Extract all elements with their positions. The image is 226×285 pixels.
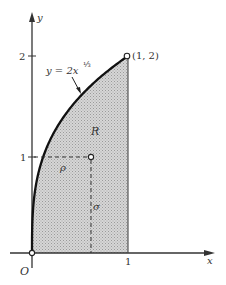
diagram-canvas: y x 2 1 1 O y = 2x ⅓ (1, 2) R ρ σ xyxy=(0,0,226,285)
endpoint-1-2 xyxy=(124,53,130,59)
y-axis-arrow-icon xyxy=(29,12,35,22)
equation-leader-arrow-icon xyxy=(76,87,81,94)
sigma-label: σ xyxy=(93,201,101,212)
curve-equation-label: y = 2x xyxy=(45,65,79,76)
origin-point xyxy=(29,250,34,255)
curve-exponent-label: ⅓ xyxy=(83,60,91,69)
rho-label: ρ xyxy=(59,162,66,173)
endpoint-coordinate-label: (1, 2) xyxy=(132,50,159,61)
origin-label: O xyxy=(20,265,29,278)
y-tick-label-1: 1 xyxy=(20,152,26,163)
region-r xyxy=(32,56,128,253)
region-label: R xyxy=(90,125,99,138)
x-tick-label-1: 1 xyxy=(125,256,131,267)
y-axis-label: y xyxy=(36,12,43,23)
y-tick-label-2: 2 xyxy=(19,51,25,62)
centroid-point xyxy=(88,154,93,159)
x-axis-label: x xyxy=(207,255,213,266)
